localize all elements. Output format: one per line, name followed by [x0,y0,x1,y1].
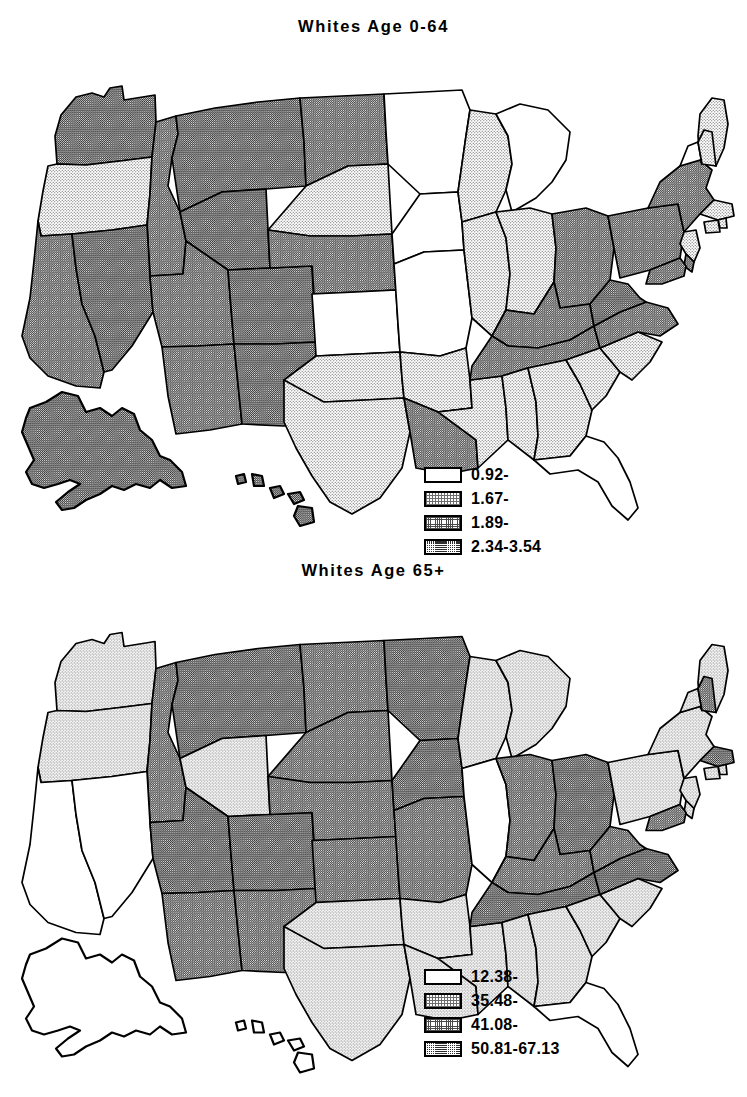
state-co [228,266,316,344]
legend-swatch-highest [424,1041,462,1057]
map-panel-whites-0-64: Whites Age 0-64 0.92- 1.67- 1.89- [0,0,747,548]
map-panel-whites-65-plus: Whites Age 65+ 12.38- 35.48- 41.08- [0,548,747,1097]
state-hi [236,474,314,526]
legend-swatch-high [424,1017,462,1033]
state-wa [55,633,156,712]
legend-label: 1.67- [471,491,509,507]
legend-row: 0.92- [424,463,541,487]
state-layer [22,633,734,1073]
legend-row: 1.67- [424,487,541,511]
state-wa [55,86,156,165]
map-title: Whites Age 65+ [0,548,747,580]
state-or [38,704,152,783]
map-title: Whites Age 0-64 [0,0,747,36]
legend-row: 12.38- [424,965,560,989]
state-ct [704,220,720,233]
legend-swatch-high [424,515,462,531]
legend-swatch-low [424,491,462,507]
state-ks [312,290,400,356]
legend-row: 35.48- [424,989,560,1013]
state-hi [236,1021,314,1073]
legend-swatch-low [424,993,462,1009]
state-ks [312,837,400,903]
state-co [228,813,316,891]
state-mn [384,90,470,194]
state-ct [704,767,720,780]
choropleth-map [0,36,747,541]
legend-swatch-lowest [424,467,462,483]
figure-page: Whites Age 0-64 0.92- 1.67- 1.89- [0,0,747,1097]
legend-label: 41.08- [471,1017,518,1033]
state-or [38,157,152,236]
state-mn [384,637,470,741]
legend-label: 35.48- [471,993,518,1009]
state-az [162,891,242,981]
state-ak [22,392,186,510]
state-mo [394,797,472,903]
state-layer [22,86,734,526]
legend-swatch-lowest [424,969,462,985]
legend-label: 1.89- [471,515,509,531]
legend-label: 12.38- [471,969,518,985]
legend-row: 1.89- [424,511,541,535]
map-legend: 0.92- 1.67- 1.89- 2.34-3.54 [424,463,541,559]
legend-label: 0.92- [471,467,509,483]
legend-row: 50.81-67.13 [424,1037,560,1061]
state-tx [284,380,410,514]
state-az [162,344,242,434]
map-stage: 12.38- 35.48- 41.08- 50.81-67.13 [0,580,747,1090]
legend-row: 41.08- [424,1013,560,1037]
state-ak [22,939,186,1057]
choropleth-map [0,580,747,1090]
legend-label: 50.81-67.13 [471,1041,560,1057]
map-legend: 12.38- 35.48- 41.08- 50.81-67.13 [424,965,560,1061]
state-tx [284,927,410,1061]
map-stage: 0.92- 1.67- 1.89- 2.34-3.54 [0,36,747,541]
state-mo [394,250,472,356]
